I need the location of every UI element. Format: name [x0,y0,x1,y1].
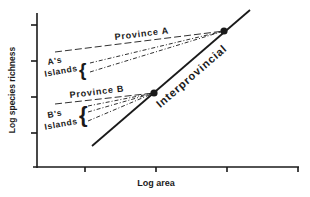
b-islands-label: B's Islands [42,105,79,131]
a-islands-brace: { [79,59,86,80]
province-a-label: Province A [114,25,169,42]
y-axis-label: Log species richness [7,47,17,134]
interprovincial-label: Interprovincial [154,42,229,110]
b-island-line [88,93,154,121]
species-area-diagram: Log area Log species richness { { Provin… [0,0,310,197]
x-axis-label: Log area [137,178,176,188]
province-a-point [220,27,227,34]
b-islands-brace: { [79,102,88,127]
a-islands-label: A's Islands [42,52,79,78]
province-b-point [150,89,157,96]
